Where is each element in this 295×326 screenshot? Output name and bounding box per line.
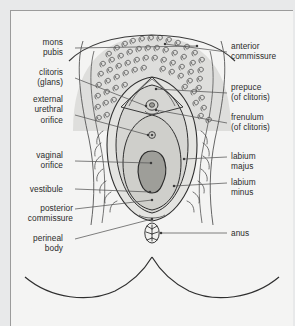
label-posterior-commissure: posterior commissure [11, 203, 73, 224]
label-labium-minus: labium minus [231, 177, 293, 198]
label-anterior-commissure: anterior commissure [231, 41, 293, 62]
external-urethral-orifice-dot [151, 134, 154, 137]
label-vaginal-orifice: vaginal orifice [11, 150, 63, 171]
thigh-fill [29, 263, 275, 326]
label-frenulum-of-clitoris: frenulum (of clitoris) [231, 112, 293, 133]
label-anus: anus [231, 228, 293, 238]
label-clitoris-glans: clitoris (glans) [11, 67, 63, 88]
label-labium-majus: labium majus [231, 151, 293, 172]
label-external-urethral-orifice: external urethral orifice [11, 94, 63, 125]
clitoris-glans-inner [149, 103, 154, 108]
label-mons-pubis: mons pubis [11, 37, 63, 58]
figure-panel: mons pubis clitoris (glans) external ure… [10, 10, 293, 326]
vaginal-orifice-shape [138, 151, 166, 193]
label-vestibule: vestibule [11, 184, 63, 194]
label-prepuce-of-clitoris: prepuce (of clitoris) [231, 82, 293, 103]
label-perineal-body: perineal body [11, 233, 63, 254]
